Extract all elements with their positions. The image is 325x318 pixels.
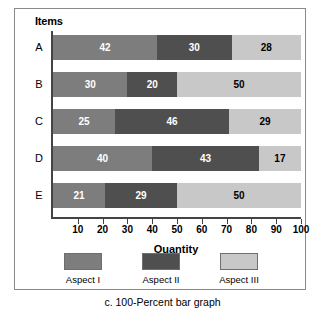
bar-row: 302050 bbox=[53, 72, 301, 97]
bar-segment: 40 bbox=[53, 146, 152, 171]
bar-segment: 46 bbox=[115, 109, 229, 134]
category-label: C bbox=[31, 109, 47, 134]
x-axis-tick-label: 90 bbox=[262, 224, 290, 235]
legend-swatch bbox=[64, 253, 102, 270]
bar-segment: 20 bbox=[127, 72, 177, 97]
legend-item: Aspect III bbox=[209, 253, 269, 285]
plot-area: 423028302050254629404317212950 ABCDE 102… bbox=[51, 31, 299, 217]
bar-segment: 17 bbox=[259, 146, 301, 171]
legend-item: Aspect I bbox=[53, 253, 113, 285]
legend-item: Aspect II bbox=[131, 253, 191, 285]
x-axis-tick-label: 80 bbox=[237, 224, 265, 235]
bar-segment: 30 bbox=[53, 72, 127, 97]
figure-frame: Items 423028302050254629404317212950 ABC… bbox=[14, 8, 306, 290]
bar-segment: 42 bbox=[53, 35, 157, 60]
bar-row: 212950 bbox=[53, 183, 301, 208]
bar-row: 254629 bbox=[53, 109, 301, 134]
bar-segment: 21 bbox=[53, 183, 105, 208]
x-axis-tick-label: 10 bbox=[64, 224, 92, 235]
category-label: B bbox=[31, 72, 47, 97]
bar-segment: 28 bbox=[232, 35, 301, 60]
x-axis-tick-label: 50 bbox=[163, 224, 191, 235]
bar-segment: 29 bbox=[105, 183, 177, 208]
category-label: A bbox=[31, 35, 47, 60]
legend-swatch bbox=[220, 253, 258, 270]
legend-swatch bbox=[142, 253, 180, 270]
x-axis-tick-label: 70 bbox=[213, 224, 241, 235]
legend: Aspect IAspect IIAspect III bbox=[39, 253, 283, 285]
bar-segment: 29 bbox=[229, 109, 301, 134]
legend-label: Aspect II bbox=[143, 274, 180, 285]
category-label: E bbox=[31, 183, 47, 208]
legend-label: Aspect I bbox=[66, 274, 100, 285]
x-axis-tick-label: 40 bbox=[138, 224, 166, 235]
figure-caption: c. 100-Percent bar graph bbox=[0, 296, 325, 308]
y-axis-title: Items bbox=[35, 15, 63, 27]
x-axis-line bbox=[51, 217, 301, 219]
x-axis-tick-label: 60 bbox=[188, 224, 216, 235]
bar-segment: 43 bbox=[152, 146, 259, 171]
bar-segment: 50 bbox=[177, 183, 301, 208]
bar-segment: 30 bbox=[157, 35, 231, 60]
bar-row: 404317 bbox=[53, 146, 301, 171]
x-axis-tick-label: 100 bbox=[287, 224, 315, 235]
bar-segment: 25 bbox=[53, 109, 115, 134]
x-axis-tick-label: 30 bbox=[113, 224, 141, 235]
bar-segment: 50 bbox=[177, 72, 301, 97]
legend-label: Aspect III bbox=[219, 274, 259, 285]
category-label: D bbox=[31, 146, 47, 171]
bar-row: 423028 bbox=[53, 35, 301, 60]
x-axis-tick-label: 20 bbox=[89, 224, 117, 235]
